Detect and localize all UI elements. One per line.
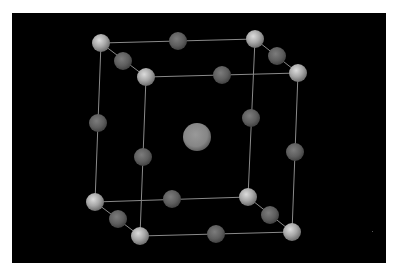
edge-atom-top-right-depth <box>268 47 286 65</box>
edge-atom-bottom-left-depth <box>109 210 127 228</box>
edge-atom-back-right <box>242 109 260 127</box>
edge-atom-back-left <box>89 114 107 132</box>
corner-atom-back-bottom-right <box>239 188 257 206</box>
edge-atom-bottom-right-depth <box>261 206 279 224</box>
edge-atom-top-left-depth <box>114 52 132 70</box>
edge-atom-back-bottom <box>163 190 181 208</box>
edge-atom-back-top <box>169 32 187 50</box>
corner-atom-back-top-right <box>246 30 264 48</box>
corner-atom-front-top-left <box>137 68 155 86</box>
edge-atom-front-top <box>213 66 231 84</box>
edge-atom-front-bottom <box>207 225 225 243</box>
center-atom-group <box>183 123 211 151</box>
unit-cell-diagram <box>0 0 393 273</box>
edge-atom-front-left <box>134 148 152 166</box>
corner-atom-front-top-right <box>289 64 307 82</box>
corner-atom-front-bottom-right <box>283 223 301 241</box>
edge-atom-front-right <box>286 143 304 161</box>
corner-atom-back-bottom-left <box>86 193 104 211</box>
center-atom-body-center <box>183 123 211 151</box>
corner-atom-front-bottom-left <box>131 227 149 245</box>
corner-atom-back-top-left <box>92 34 110 52</box>
noise-speck <box>372 231 373 232</box>
